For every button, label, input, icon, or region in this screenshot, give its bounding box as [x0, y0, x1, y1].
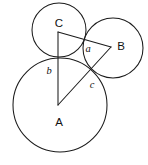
circle-label-b: B [117, 40, 125, 52]
circle-b [83, 18, 143, 78]
circle-label-c: C [55, 17, 63, 29]
circle-c [32, 3, 86, 57]
side-label-a: a [85, 43, 90, 54]
side-label-c: c [90, 79, 95, 90]
figure-canvas: A B C a b c [0, 0, 148, 165]
geometry-figure: A B C a b c [0, 0, 148, 165]
side-label-b: b [46, 65, 51, 76]
circle-a [13, 58, 107, 152]
circle-label-a: A [55, 116, 63, 128]
